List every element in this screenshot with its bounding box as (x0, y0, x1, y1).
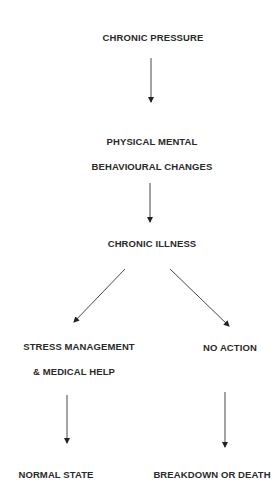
node-chronic-pressure: CHRONIC PRESSURE (103, 32, 204, 43)
node-stress-management: STRESS MANAGEMENT (23, 341, 134, 352)
node-physical-mental: PHYSICAL MENTAL (107, 136, 198, 147)
node-chronic-illness: CHRONIC ILLNESS (108, 238, 197, 249)
arrow-illness-to-no-action (170, 269, 229, 326)
node-breakdown-or-death: BREAKDOWN OR DEATH (153, 469, 270, 480)
arrow-illness-to-stress-management (74, 269, 125, 322)
node-no-action: NO ACTION (203, 342, 257, 353)
node-normal-state: NORMAL STATE (18, 469, 93, 480)
node-behavioural-changes: BEHAVIOURAL CHANGES (92, 161, 213, 172)
node-medical-help: & MEDICAL HELP (33, 366, 115, 377)
